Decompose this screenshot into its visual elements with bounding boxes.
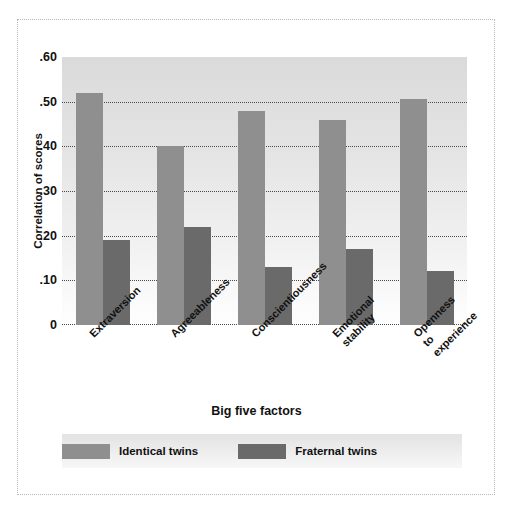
legend-entry-identical-twins: Identical twins (62, 444, 198, 459)
legend-swatch-fraternal-twins (238, 444, 286, 459)
y-tick-label: .40 (40, 139, 57, 153)
x-axis-title: Big five factors (0, 404, 513, 418)
y-tick-label: .30 (40, 184, 57, 198)
bar-group (76, 57, 130, 325)
y-tick-label: .20 (40, 229, 57, 243)
y-tick-label: 0 (50, 318, 57, 332)
bar-identical-twins (238, 111, 265, 325)
bar-identical-twins (76, 93, 103, 325)
bar-group (157, 57, 211, 325)
chart-legend: Identical twins Fraternal twins (62, 434, 462, 468)
legend-entry-fraternal-twins: Fraternal twins (238, 444, 377, 459)
y-tick-label: .10 (40, 273, 57, 287)
bar-identical-twins (157, 146, 184, 325)
legend-swatch-identical-twins (62, 444, 110, 459)
chart-figure: Correlation of scores .60.50.40.30.20.10… (0, 0, 513, 515)
bar-identical-twins (319, 120, 346, 325)
legend-label-fraternal-twins: Fraternal twins (295, 445, 377, 457)
y-tick-label: .60 (40, 50, 57, 64)
bar-identical-twins (400, 99, 427, 325)
y-tick-label: .50 (40, 95, 57, 109)
bar-group (319, 57, 373, 325)
bar-group (238, 57, 292, 325)
legend-label-identical-twins: Identical twins (119, 445, 198, 457)
bar-group (400, 57, 454, 325)
plot-area: .60.50.40.30.20.100 (62, 57, 467, 325)
